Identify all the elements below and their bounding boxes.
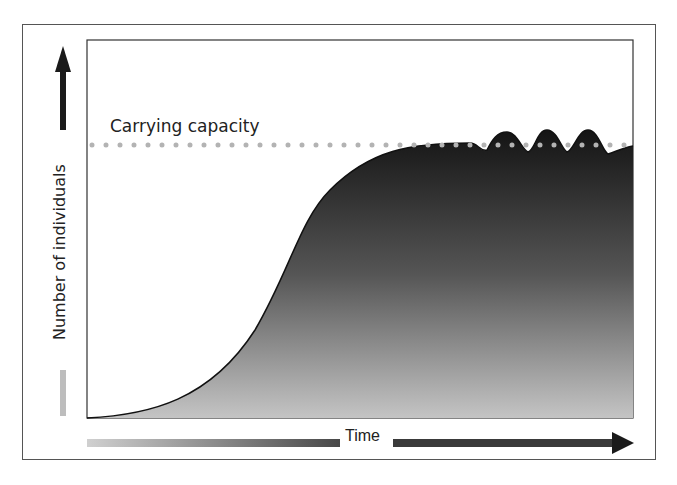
x-axis-label: Time	[345, 427, 380, 445]
y-axis-label: Number of individuals	[50, 164, 69, 340]
carrying-capacity-label: Carrying capacity	[110, 116, 260, 136]
logistic-growth-diagram	[0, 0, 677, 485]
